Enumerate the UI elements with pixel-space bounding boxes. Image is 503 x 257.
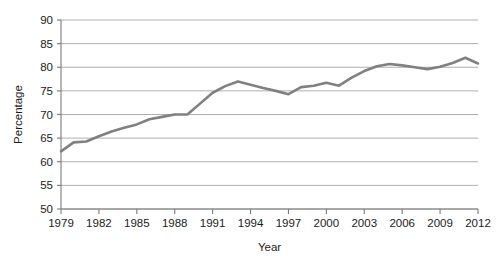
x-tick-label: 1997 <box>276 217 302 229</box>
x-tick-label: 1985 <box>124 217 150 229</box>
y-tick-labels: 505560657075808590 <box>40 14 53 215</box>
y-tick-label: 75 <box>40 85 53 97</box>
chart-svg: 505560657075808590 197919821985198819911… <box>0 0 503 257</box>
data-series <box>61 58 478 152</box>
x-tick-labels: 1979198219851988199119941997200020032006… <box>48 217 491 229</box>
x-tick-label: 1991 <box>200 217 226 229</box>
x-tick-label: 2003 <box>351 217 377 229</box>
y-tick-label: 85 <box>40 38 53 50</box>
y-tick-label: 60 <box>40 156 53 168</box>
x-tick-label: 2000 <box>314 217 340 229</box>
y-axis <box>57 20 61 209</box>
y-tick-label: 80 <box>40 61 53 73</box>
y-tick-label: 70 <box>40 109 53 121</box>
x-axis-title: Year <box>258 241 281 253</box>
x-tick-label: 1988 <box>162 217 188 229</box>
y-tick-label: 55 <box>40 179 53 191</box>
x-tick-label: 2012 <box>465 217 491 229</box>
y-tick-label: 50 <box>40 203 53 215</box>
y-tick-label: 65 <box>40 132 53 144</box>
x-tick-label: 1994 <box>238 217 264 229</box>
x-tick-label: 2006 <box>389 217 415 229</box>
x-axis <box>61 209 478 214</box>
data-line-series <box>61 58 478 152</box>
x-tick-label: 1982 <box>86 217 112 229</box>
y-axis-title: Percentage <box>12 85 24 144</box>
line-chart: 505560657075808590 197919821985198819911… <box>0 0 503 257</box>
gridlines <box>61 20 478 209</box>
x-tick-label: 2009 <box>427 217 453 229</box>
y-tick-label: 90 <box>40 14 53 26</box>
x-tick-label: 1979 <box>48 217 74 229</box>
